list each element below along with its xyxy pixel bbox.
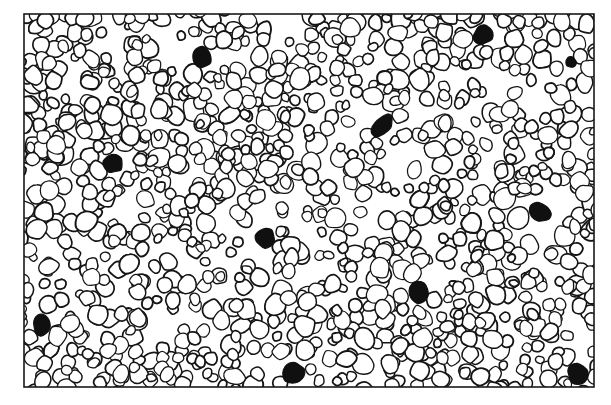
cell-outline bbox=[39, 91, 47, 100]
cell-outline bbox=[509, 280, 519, 287]
cell-outline bbox=[485, 231, 504, 251]
cell-outline bbox=[302, 168, 318, 185]
cell-outline bbox=[525, 120, 539, 133]
cell-outline bbox=[168, 227, 177, 235]
cell-outline bbox=[154, 234, 162, 243]
cell-outline bbox=[318, 209, 327, 218]
cell-outline bbox=[507, 207, 528, 230]
cell-outline bbox=[540, 370, 557, 387]
cell-outline bbox=[82, 349, 93, 359]
cell-outline bbox=[132, 224, 150, 241]
cell-outline bbox=[175, 133, 189, 146]
cell-outline bbox=[461, 331, 477, 347]
cell-outline bbox=[151, 99, 168, 118]
cell-outline bbox=[26, 153, 40, 166]
cell-outline bbox=[124, 14, 135, 24]
cell-outline bbox=[390, 136, 399, 145]
cell-outline bbox=[550, 173, 561, 186]
cell-outline bbox=[555, 298, 566, 310]
cell-outline bbox=[434, 339, 441, 348]
cell-outline bbox=[249, 190, 265, 204]
cell-outline bbox=[272, 50, 287, 64]
cell-outline bbox=[368, 43, 378, 51]
cell-outline bbox=[257, 33, 270, 46]
cell-outline bbox=[127, 49, 143, 66]
cell-outline bbox=[247, 125, 257, 133]
cell-outline bbox=[393, 288, 408, 303]
cell-outline bbox=[454, 299, 466, 309]
cell-outline bbox=[420, 91, 434, 106]
cell-outline bbox=[562, 151, 576, 168]
cell-outline bbox=[540, 113, 551, 125]
cell-outline bbox=[26, 220, 47, 239]
cell-outline bbox=[438, 115, 451, 132]
cell-outline bbox=[410, 361, 429, 380]
cell-outline bbox=[250, 320, 269, 339]
cell-outline bbox=[426, 348, 436, 358]
cell-outline bbox=[550, 109, 563, 124]
cell-outline bbox=[418, 130, 428, 141]
cell-outline bbox=[439, 89, 450, 100]
cell-outline bbox=[187, 237, 197, 247]
cell-outline bbox=[550, 61, 563, 76]
cell-outline bbox=[203, 368, 212, 378]
cell-outline bbox=[454, 310, 463, 319]
cell-outline bbox=[445, 139, 462, 156]
cell-outline bbox=[298, 292, 316, 310]
cell-outline bbox=[450, 57, 459, 66]
cell-outline bbox=[220, 159, 232, 173]
cell-outline bbox=[469, 145, 478, 154]
cell-outline bbox=[330, 195, 339, 204]
cell-outline bbox=[544, 147, 554, 158]
cell-outline bbox=[527, 74, 537, 87]
cell-outline bbox=[220, 66, 228, 75]
cell-outline bbox=[34, 202, 53, 221]
cell-outline bbox=[100, 252, 110, 261]
cell-outline bbox=[140, 130, 151, 141]
cell-outline bbox=[61, 365, 72, 375]
cell-outline bbox=[468, 170, 478, 179]
cell-outline bbox=[330, 75, 340, 85]
cell-outline bbox=[42, 56, 56, 70]
cell-outline bbox=[338, 43, 351, 56]
cell-outline bbox=[101, 104, 123, 125]
cell-outline bbox=[154, 168, 163, 177]
cell-outline bbox=[513, 15, 525, 28]
cell-outline bbox=[517, 183, 531, 194]
cell-outline bbox=[543, 298, 555, 310]
cell-outline bbox=[168, 67, 176, 76]
cell-outline bbox=[457, 169, 466, 178]
cell-outline bbox=[453, 232, 466, 246]
cell-outline bbox=[212, 188, 222, 198]
cell-outline bbox=[200, 258, 209, 266]
cell-outline bbox=[305, 28, 318, 42]
cell-outline bbox=[197, 213, 216, 233]
cell-outline bbox=[39, 279, 50, 289]
cell-outline bbox=[27, 142, 35, 152]
cell-outline bbox=[74, 43, 86, 58]
cell-outline bbox=[256, 110, 275, 131]
cell-outline bbox=[166, 292, 180, 309]
cell-outline bbox=[506, 154, 516, 164]
cell-outline bbox=[500, 61, 510, 71]
cell-outline bbox=[381, 355, 398, 374]
cell-outline bbox=[233, 237, 243, 247]
cell-outline bbox=[188, 332, 201, 345]
cell-outline bbox=[382, 182, 391, 192]
cell-outline bbox=[132, 40, 143, 51]
cell-outline bbox=[344, 224, 358, 236]
cell-outline bbox=[55, 279, 66, 289]
cell-outline bbox=[432, 371, 450, 387]
cell-outline bbox=[266, 143, 274, 152]
cell-outline bbox=[462, 60, 471, 69]
cell-outline bbox=[317, 227, 326, 237]
cell-outline bbox=[392, 109, 408, 124]
cell-outline bbox=[241, 145, 250, 154]
cell-outline bbox=[81, 75, 99, 89]
cell-outline bbox=[141, 178, 152, 190]
cell-outline bbox=[362, 248, 373, 258]
cell-outline bbox=[251, 138, 264, 155]
cell-outline bbox=[437, 351, 448, 364]
cell-outline bbox=[570, 243, 583, 255]
cell-outline bbox=[318, 52, 327, 62]
